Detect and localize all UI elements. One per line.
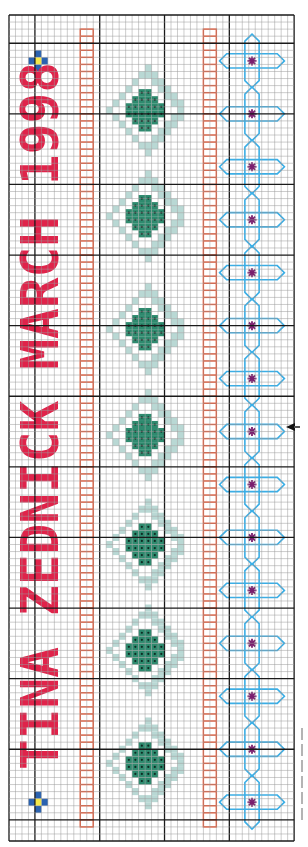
center-marker-tail xyxy=(294,426,300,428)
caption-rotated-illegible xyxy=(298,728,306,838)
cross-stitch-chart: TINA ZEDNICK MARCH 1998 xyxy=(0,0,308,847)
